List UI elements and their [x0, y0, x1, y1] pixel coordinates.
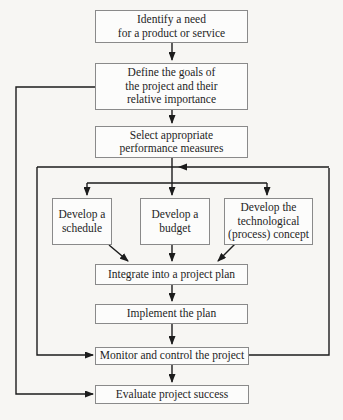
box-define-goals: Define the goals of the project and thei… [95, 63, 248, 110]
box-implement-plan: Implement the plan [95, 304, 248, 324]
box-select-measures: Select appropriate performance measures [95, 126, 248, 158]
arrow-tech-to-integrate [218, 244, 235, 261]
monitor-feedback-right-line [249, 168, 329, 355]
feedback-left-arrowhead [178, 164, 187, 171]
arrow-schedule-to-integrate [109, 245, 128, 261]
box-identify-need: Identify a need for a product or service [95, 10, 248, 43]
box-develop-budget: Develop a budget [140, 198, 210, 245]
flowchart-project-planning: Identify a need for a product or service… [0, 0, 343, 420]
box-develop-tech-concept: Develop the technological (process) conc… [224, 198, 313, 245]
box-develop-schedule: Develop a schedule [52, 198, 112, 245]
measures-to-monitor-line [37, 167, 93, 355]
box-integrate-plan: Integrate into a project plan [95, 264, 248, 285]
box-evaluate-success: Evaluate project success [95, 385, 249, 404]
box-monitor-control: Monitor and control the project [95, 347, 249, 365]
